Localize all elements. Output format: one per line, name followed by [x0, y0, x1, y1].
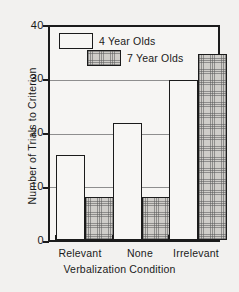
bar-none-7-year-olds — [142, 197, 171, 240]
x-tick-mark-1 — [55, 235, 57, 241]
legend-label-4-year-olds: 4 Year Olds — [99, 35, 156, 47]
bar-relevant-7-year-olds — [85, 197, 114, 240]
y-tick-label-10: 10 — [4, 180, 44, 192]
legend-swatch-7-year-olds — [87, 50, 121, 66]
x-tick-mark-3 — [112, 235, 114, 241]
y-tick-label-0: 0 — [4, 234, 44, 246]
chart-figure: Number of Trials to Criterion 40 30 20 1… — [0, 0, 239, 292]
y-tick-label-40: 40 — [4, 19, 44, 31]
x-tick-mark-5 — [168, 235, 170, 241]
x-tick-mark-6 — [197, 235, 199, 241]
bar-none-4-year-olds — [113, 123, 142, 240]
bar-relevant-4-year-olds — [56, 155, 85, 240]
chart-legend: 4 Year Olds 7 Year Olds — [59, 33, 209, 75]
bar-irrelevant-7-year-olds — [198, 54, 227, 240]
x-tick-mark-4 — [141, 235, 143, 241]
legend-label-7-year-olds: 7 Year Olds — [127, 52, 184, 64]
x-tick-label-relevant: Relevant — [48, 247, 112, 259]
x-tick-label-none: None — [110, 247, 170, 259]
x-tick-mark-2 — [84, 235, 86, 241]
y-tick-label-20: 20 — [4, 126, 44, 138]
bar-irrelevant-4-year-olds — [169, 80, 198, 240]
x-axis-title: Verbalization Condition — [0, 263, 239, 275]
y-tick-label-30: 30 — [4, 72, 44, 84]
legend-swatch-4-year-olds — [59, 33, 93, 49]
x-tick-label-irrelevant: Irrelevant — [163, 247, 229, 259]
plot-area: 4 Year Olds 7 Year Olds — [48, 25, 220, 242]
